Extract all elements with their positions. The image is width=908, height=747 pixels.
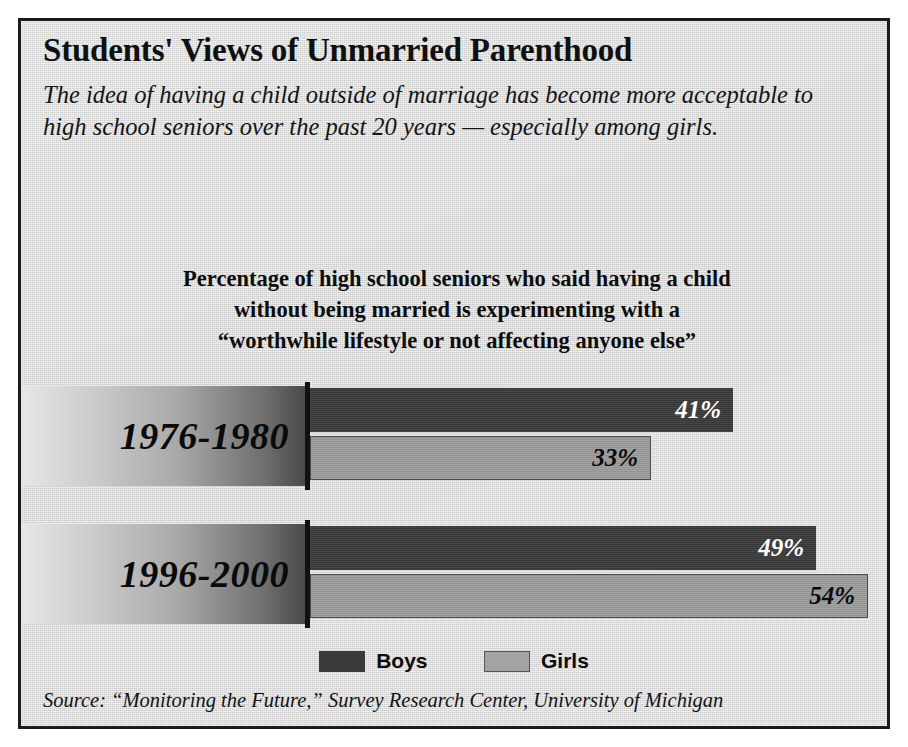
legend-item-boys: Boys (319, 649, 427, 673)
era-label-band: 1996-2000 (21, 524, 305, 624)
chart-title-line-2: without being married is experimenting w… (71, 294, 843, 325)
legend-swatch-girls-icon (484, 651, 530, 672)
bar-group-1976-1980: 1976-1980 41% 33% (21, 386, 887, 486)
chart-plot-area: 1976-1980 41% 33% 1996-2000 49% 54% (21, 376, 887, 636)
chart-title-line-1: Percentage of high school seniors who sa… (71, 263, 843, 294)
bar-value-label: 33% (592, 437, 638, 481)
bar-group-1996-2000: 1996-2000 49% 54% (21, 524, 887, 624)
bar-boys-1976-1980: 41% (310, 388, 733, 432)
category-label: 1996-2000 (21, 524, 289, 624)
legend-swatch-boys-icon (319, 651, 365, 672)
chart-title: Percentage of high school seniors who sa… (71, 263, 843, 356)
legend-label-boys: Boys (376, 649, 427, 673)
category-label: 1976-1980 (21, 386, 289, 486)
bar-girls-1976-1980: 33% (310, 436, 651, 480)
era-label-band: 1976-1980 (21, 386, 305, 486)
subtitle-deck: The idea of having a child outside of ma… (43, 79, 858, 143)
bar-value-label: 54% (809, 575, 855, 619)
chart-title-line-3: “worthwhile lifestyle or not affecting a… (71, 325, 843, 356)
legend-label-girls: Girls (541, 649, 589, 673)
bar-boys-1996-2000: 49% (310, 526, 816, 570)
bar-girls-1996-2000: 54% (310, 574, 868, 618)
bar-value-label: 49% (758, 526, 804, 570)
page-title: Students' Views of Unmarried Parenthood (43, 29, 863, 71)
legend-item-girls: Girls (484, 649, 589, 673)
chart-legend: Boys Girls (21, 649, 887, 673)
source-note: Source: “Monitoring the Future,” Survey … (43, 689, 868, 712)
bar-value-label: 41% (675, 388, 721, 432)
chart-figure: Students' Views of Unmarried Parenthood … (18, 18, 890, 729)
